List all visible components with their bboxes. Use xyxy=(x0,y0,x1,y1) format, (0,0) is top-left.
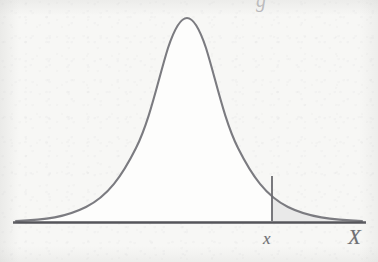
bell-curve-svg xyxy=(0,0,378,262)
curve-interior-fill xyxy=(16,18,362,221)
axis-label-x-lower: x xyxy=(263,230,271,247)
right-tail-shaded-area xyxy=(272,0,364,222)
axis-label-x-upper: X xyxy=(348,227,361,248)
normal-distribution-figure: g x X xyxy=(0,0,378,262)
